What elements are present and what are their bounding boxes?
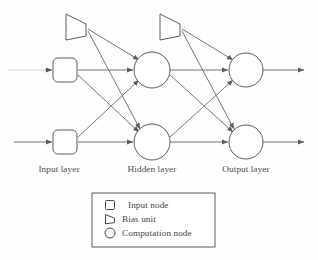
edge-input2-hidden1 [78, 80, 139, 137]
neural-network-diagram: Input layer Hidden layer Output layer In… [0, 0, 318, 260]
output-arrows [263, 70, 304, 142]
input-node-1 [53, 58, 77, 82]
bias-unit-1 [66, 14, 86, 40]
output-node-1 [229, 53, 263, 87]
square-icon [106, 201, 115, 210]
edge-bias1-hidden2 [88, 31, 140, 129]
input-node-2 [53, 130, 77, 154]
hidden-nodes [134, 52, 170, 160]
output-nodes [229, 53, 263, 159]
layer-label-output: Output layer [222, 164, 269, 174]
edge-hidden1-output2 [170, 75, 233, 132]
edge-bias2-output1 [182, 29, 233, 60]
legend-label-computation-node: Computation node [122, 228, 192, 238]
hidden-node-1 [134, 52, 170, 88]
legend: Input node Bias unit Computation node [92, 193, 215, 247]
circle-icon [105, 228, 115, 238]
legend-label-input-node: Input node [128, 200, 169, 210]
output-node-2 [229, 125, 263, 159]
legend-label-bias-unit: Bias unit [122, 214, 156, 224]
hidden-node-2 [134, 124, 170, 160]
edge-bias2-output2 [182, 31, 234, 129]
input-arrows [8, 70, 52, 142]
layer-label-input: Input layer [38, 164, 79, 174]
bias-units [66, 14, 180, 40]
edge-input1-hidden2 [78, 75, 139, 132]
input-nodes [53, 58, 77, 154]
bias-unit-2 [160, 14, 180, 40]
network-canvas: Input layer Hidden layer Output layer In… [0, 0, 318, 260]
layer-labels: Input layer Hidden layer Output layer [38, 164, 269, 174]
edge-bias1-hidden1 [88, 29, 139, 60]
layer-label-hidden: Hidden layer [128, 164, 177, 174]
